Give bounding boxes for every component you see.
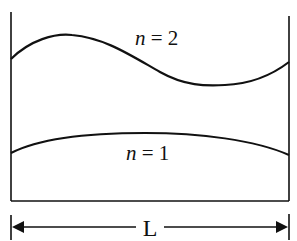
arrow-right-icon (276, 221, 288, 233)
label-n2: n = 2 (135, 26, 178, 50)
label-n1: n = 1 (126, 141, 169, 165)
arrow-left-icon (12, 221, 24, 233)
dimension-label-L: L (143, 215, 158, 241)
standing-wave-diagram: n = 2 n = 1 L (0, 0, 297, 241)
